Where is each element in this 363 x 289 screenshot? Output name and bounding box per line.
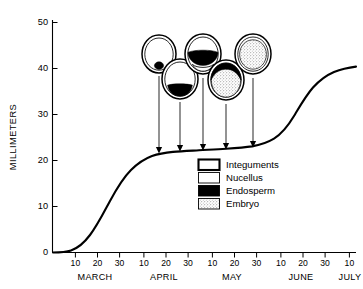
x-tick-label-0: 10 <box>71 258 81 268</box>
endosperm-region <box>154 62 163 70</box>
month-label-june: JUNE <box>289 272 314 282</box>
y-axis: 0 10 20 30 40 50 MILLIMETERS <box>8 17 58 257</box>
y-axis-title: MILLIMETERS <box>8 104 18 170</box>
x-tick-label-3: 10 <box>139 258 149 268</box>
y-tick-label-30: 30 <box>38 109 48 119</box>
x-tick-label-6: 10 <box>208 258 218 268</box>
x-axis: 10 20 30 10 20 30 10 20 30 10 20 30 10 M… <box>53 253 362 283</box>
figure-seed-development: 0 10 20 30 40 50 MILLIMETERS 10 20 30 10… <box>0 0 363 289</box>
y-tick-label-40: 40 <box>38 63 48 73</box>
legend-item-endosperm: Endosperm <box>199 185 276 196</box>
legend-item-nucellus: Nucellus <box>199 172 263 183</box>
x-axis-ticks <box>75 253 349 258</box>
legend-label-endosperm: Endosperm <box>226 185 275 196</box>
y-tick-label-0: 0 <box>43 247 48 257</box>
legend-label-nucellus: Nucellus <box>226 172 263 183</box>
y-axis-ticks <box>53 23 58 253</box>
legend-label-integuments: Integuments <box>226 159 279 170</box>
x-tick-label-12: 10 <box>345 258 355 268</box>
month-label-july: JULY <box>339 272 362 282</box>
legend-item-embryo: Embryo <box>199 198 260 209</box>
legend-label-embryo: Embryo <box>226 198 259 209</box>
x-tick-label-4: 20 <box>161 258 171 268</box>
x-tick-label-2: 30 <box>115 258 125 268</box>
x-tick-label-1: 20 <box>93 258 103 268</box>
legend-swatch-embryo <box>199 199 220 210</box>
x-tick-label-10: 20 <box>298 258 308 268</box>
seed-stage-5 <box>235 34 271 74</box>
x-tick-label-8: 30 <box>252 258 262 268</box>
y-tick-label-20: 20 <box>38 155 48 165</box>
embryo-region <box>240 40 267 69</box>
legend-swatch-endosperm <box>199 186 220 197</box>
legend-swatch-nucellus <box>199 173 220 184</box>
y-tick-label-50: 50 <box>38 17 48 27</box>
legend-item-integuments: Integuments <box>199 159 280 170</box>
x-tick-label-5: 30 <box>183 258 193 268</box>
x-tick-label-11: 30 <box>320 258 330 268</box>
y-tick-label-10: 10 <box>38 201 48 211</box>
month-label-april: APRIL <box>150 272 178 282</box>
legend-swatch-integuments <box>199 160 220 171</box>
x-tick-label-9: 10 <box>276 258 286 268</box>
legend: Integuments Nucellus Endosperm Embryo <box>199 159 280 209</box>
month-label-march: MARCH <box>78 272 113 282</box>
month-label-may: MAY <box>222 272 242 282</box>
x-tick-label-7: 20 <box>230 258 240 268</box>
